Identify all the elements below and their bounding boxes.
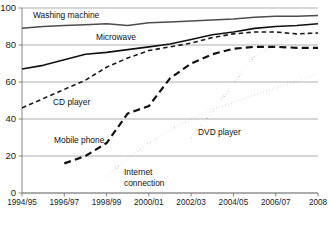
- series-label-cd-player: CD player: [53, 97, 90, 107]
- x-axis-label-3: 2000/01: [134, 198, 164, 207]
- series-label-dvd-player: DVD player: [198, 127, 241, 137]
- chart-canvas: 020406080100 1994/951996/971998/992000/0…: [0, 0, 330, 225]
- y-axis-label-20: 20: [5, 150, 16, 161]
- data-series: [22, 15, 318, 176]
- x-axis-labels: 1994/951996/971998/992000/012002/032004/…: [7, 198, 327, 207]
- y-axis-label-0: 0: [11, 187, 16, 198]
- x-axis-label-2: 1998/99: [92, 198, 122, 207]
- x-axis-label-6: 2006/07: [261, 198, 291, 207]
- x-axis-label-7: 2008: [309, 198, 328, 207]
- series-line-dvd-player: [191, 32, 318, 137]
- series-label-mobile-phone: Mobile phone: [54, 135, 105, 145]
- series-label-microwave: Microwave: [96, 32, 136, 42]
- series-line-internet-connection: [107, 73, 318, 177]
- line-chart: 020406080100 1994/951996/971998/992000/0…: [0, 0, 330, 225]
- series-label-washing-machine: Washing machine: [33, 10, 100, 20]
- x-axis-label-0: 1994/95: [7, 198, 37, 207]
- y-axis-label-60: 60: [5, 76, 16, 87]
- series-label-internet-connection-line2: connection: [124, 178, 165, 188]
- y-axis-label-40: 40: [5, 113, 16, 124]
- y-axis-label-80: 80: [5, 39, 16, 50]
- y-axis-labels: 020406080100: [0, 2, 16, 198]
- x-axis-label-4: 2002/03: [176, 198, 206, 207]
- series-line-mobile-phone: [64, 47, 318, 164]
- series-label-internet-connection: Internet: [124, 167, 153, 177]
- x-axis-label-1: 1996/97: [49, 198, 79, 207]
- series-labels: Washing machineMicrowaveCD playerMobile …: [33, 10, 241, 188]
- y-axis-label-100: 100: [0, 2, 16, 13]
- x-axis-label-5: 2004/05: [219, 198, 249, 207]
